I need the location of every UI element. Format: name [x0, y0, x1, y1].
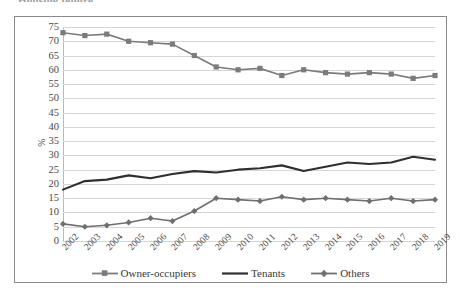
data-point [147, 215, 153, 221]
data-point [323, 70, 328, 75]
data-point [279, 73, 284, 78]
series-line [63, 157, 435, 190]
data-point [104, 222, 110, 228]
data-point [389, 71, 394, 76]
legend-swatch-square-icon [92, 268, 118, 279]
data-point [170, 42, 175, 47]
y-tick-label: 25 [49, 164, 60, 175]
legend-item[interactable]: Tenants [222, 267, 285, 279]
plot-area: 051015202530354045505560657075 [63, 27, 435, 241]
legend-label: Owner-occupiers [121, 267, 197, 279]
legend-swatch-none-icon [222, 268, 248, 279]
y-tick-label: 40 [49, 122, 60, 133]
chart-legend: Owner-occupiersTenantsOthers [15, 267, 446, 279]
data-point [60, 221, 66, 227]
data-point [82, 224, 88, 230]
data-point [169, 218, 175, 224]
x-tick-label: 2019 [432, 232, 453, 253]
data-point [126, 39, 131, 44]
data-point [301, 197, 307, 203]
data-point [432, 73, 437, 78]
y-tick-label: 35 [49, 136, 60, 147]
data-point [432, 197, 438, 203]
legend-label: Tenants [251, 267, 285, 279]
data-point [192, 53, 197, 58]
legend-item[interactable]: Others [311, 267, 369, 279]
y-tick-label: 0 [54, 236, 59, 247]
data-point [60, 30, 65, 35]
data-point [148, 40, 153, 45]
data-point [410, 198, 416, 204]
data-point [235, 67, 240, 72]
cropped-title: Housing tenure [18, 0, 318, 2]
series-line [63, 197, 435, 227]
data-point [301, 67, 306, 72]
series-line [63, 33, 435, 79]
data-point [388, 195, 394, 201]
y-tick-label: 45 [49, 107, 60, 118]
y-tick-label: 30 [49, 150, 60, 161]
y-axis-label: % [36, 138, 47, 146]
y-tick-label: 50 [49, 93, 60, 104]
data-point [344, 197, 350, 203]
y-tick-label: 10 [49, 207, 60, 218]
data-point [279, 194, 285, 200]
y-tick-label: 75 [49, 22, 60, 33]
data-point [366, 198, 372, 204]
data-point [235, 197, 241, 203]
legend-label: Others [340, 267, 369, 279]
data-point [126, 219, 132, 225]
data-point [214, 64, 219, 69]
y-tick-label: 5 [54, 221, 59, 232]
y-tick-label: 70 [49, 36, 60, 47]
legend-item[interactable]: Owner-occupiers [92, 267, 197, 279]
y-tick-label: 65 [49, 50, 60, 61]
y-tick-label: 20 [49, 179, 60, 190]
data-point [367, 70, 372, 75]
legend-swatch-diamond-icon [311, 268, 337, 279]
chart-frame: % 051015202530354045505560657075 2002200… [14, 16, 447, 283]
y-tick-label: 60 [49, 65, 60, 76]
y-tick-label: 15 [49, 193, 60, 204]
data-point [82, 33, 87, 38]
data-point [322, 195, 328, 201]
y-tick-label: 55 [49, 79, 60, 90]
series-layer [63, 27, 435, 241]
data-point [104, 32, 109, 37]
data-point [411, 76, 416, 81]
data-point [257, 66, 262, 71]
data-point [345, 71, 350, 76]
data-point [257, 198, 263, 204]
